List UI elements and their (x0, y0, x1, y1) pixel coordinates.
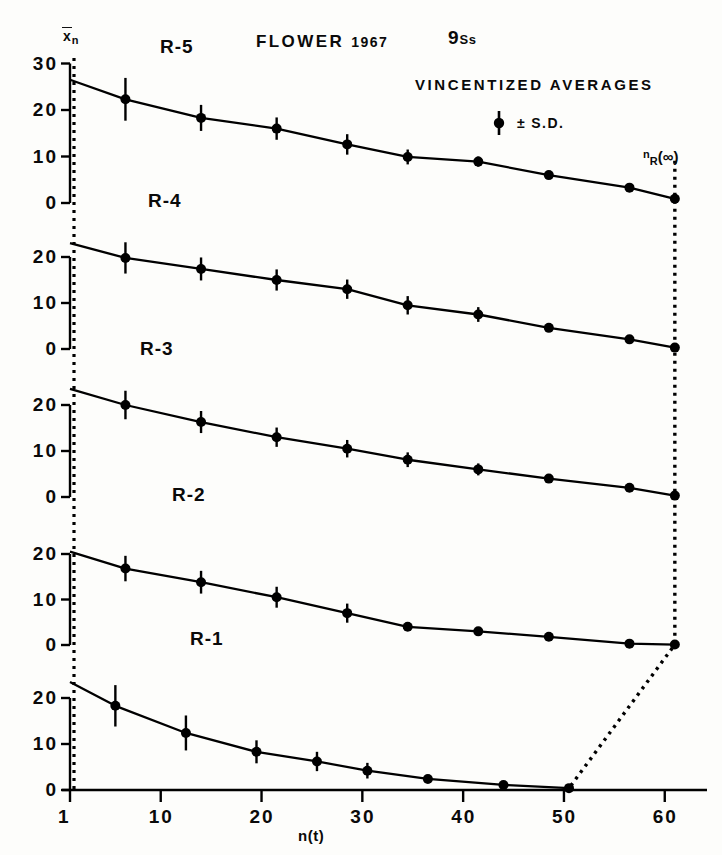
y-tick-label: 0 (8, 634, 58, 656)
x-tick-label: 30 (350, 806, 375, 828)
y-axis-title-main: x (62, 27, 72, 44)
y-axis-title: xn (62, 28, 79, 46)
panel-label-r-4: R-4 (148, 190, 182, 212)
figure-title: FLOWER 1967 (256, 32, 388, 52)
y-tick-label: 20 (8, 246, 58, 268)
panel-label-r-3: R-3 (140, 338, 174, 360)
x-axis-title: n(t) (298, 827, 324, 844)
asymptote-label: nR(∞) (643, 148, 678, 167)
asymptote-label-sub: R (650, 155, 658, 167)
method-note: VINCENTIZED AVERAGES (415, 76, 654, 93)
panel-label-r-5: R-5 (160, 36, 194, 58)
chart-canvas (0, 0, 722, 855)
y-tick-label: 20 (8, 394, 58, 416)
y-tick-label: 0 (8, 779, 58, 801)
y-tick-label: 10 (8, 589, 58, 611)
y-tick-label: 10 (8, 440, 58, 462)
y-tick-label: 20 (8, 687, 58, 709)
y-tick-label: 10 (8, 292, 58, 314)
y-tick-label: 30 (8, 53, 58, 75)
y-tick-label: 10 (8, 146, 58, 168)
x-tick-label: 20 (250, 806, 275, 828)
asymptote-label-main: n (643, 148, 650, 160)
x-tick-label: 1 (58, 806, 71, 828)
y-tick-label: 20 (8, 543, 58, 565)
panel-label-r-2: R-2 (172, 484, 206, 506)
subject-count: 9Ss (448, 27, 476, 49)
figure-title-text: FLOWER (256, 32, 344, 51)
subject-count-unit: Ss (460, 32, 477, 47)
y-tick-label: 0 (8, 486, 58, 508)
legend-sd-label: ± S.D. (517, 115, 564, 131)
x-tick-label: 10 (149, 806, 174, 828)
x-tick-label: 60 (653, 806, 678, 828)
y-axis-title-sub: n (72, 34, 79, 46)
y-tick-label: 0 (8, 338, 58, 360)
y-tick-label: 20 (8, 99, 58, 121)
y-tick-label: 10 (8, 733, 58, 755)
subject-count-number: 9 (448, 27, 460, 48)
figure-container: xn FLOWER 1967 9Ss VINCENTIZED AVERAGES … (0, 0, 722, 855)
x-tick-label: 50 (552, 806, 577, 828)
x-tick-label: 40 (451, 806, 476, 828)
asymptote-label-arg: (∞) (658, 148, 679, 165)
y-tick-label: 0 (8, 192, 58, 214)
panel-label-r-1: R-1 (190, 628, 224, 650)
figure-year: 1967 (351, 34, 388, 50)
